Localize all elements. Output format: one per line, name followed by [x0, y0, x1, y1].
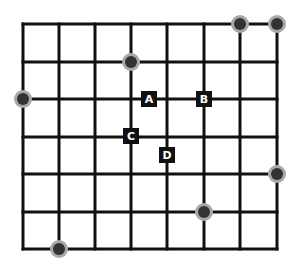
grid-dot: [268, 165, 286, 183]
grid-board: ABCD: [0, 0, 300, 265]
point-label-a: A: [141, 91, 157, 107]
svg-text:D: D: [162, 149, 171, 162]
grid-dot: [14, 90, 32, 108]
grid-dot: [231, 15, 249, 33]
grid-dot: [195, 203, 213, 221]
grid-dot: [268, 15, 286, 33]
point-label-d: D: [159, 147, 175, 163]
point-label-c: C: [123, 128, 139, 144]
point-label-b: B: [196, 91, 212, 107]
svg-text:B: B: [200, 93, 208, 106]
svg-text:A: A: [145, 93, 154, 106]
grid-lines: [23, 24, 277, 249]
grid-dot: [50, 240, 68, 258]
svg-text:C: C: [127, 130, 135, 143]
grid-dot: [122, 53, 140, 71]
